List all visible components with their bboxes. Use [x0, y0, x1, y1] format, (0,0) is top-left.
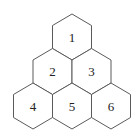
hex-label-4: 4: [30, 99, 37, 114]
hex-label-6: 6: [108, 99, 115, 114]
hex-label-3: 3: [88, 64, 95, 79]
hex-label-5: 5: [69, 99, 76, 114]
hex-label-1: 1: [69, 30, 76, 45]
hex-label-2: 2: [49, 64, 56, 79]
hexagon-diagram: 1 2 3 4 5 6: [0, 0, 139, 137]
